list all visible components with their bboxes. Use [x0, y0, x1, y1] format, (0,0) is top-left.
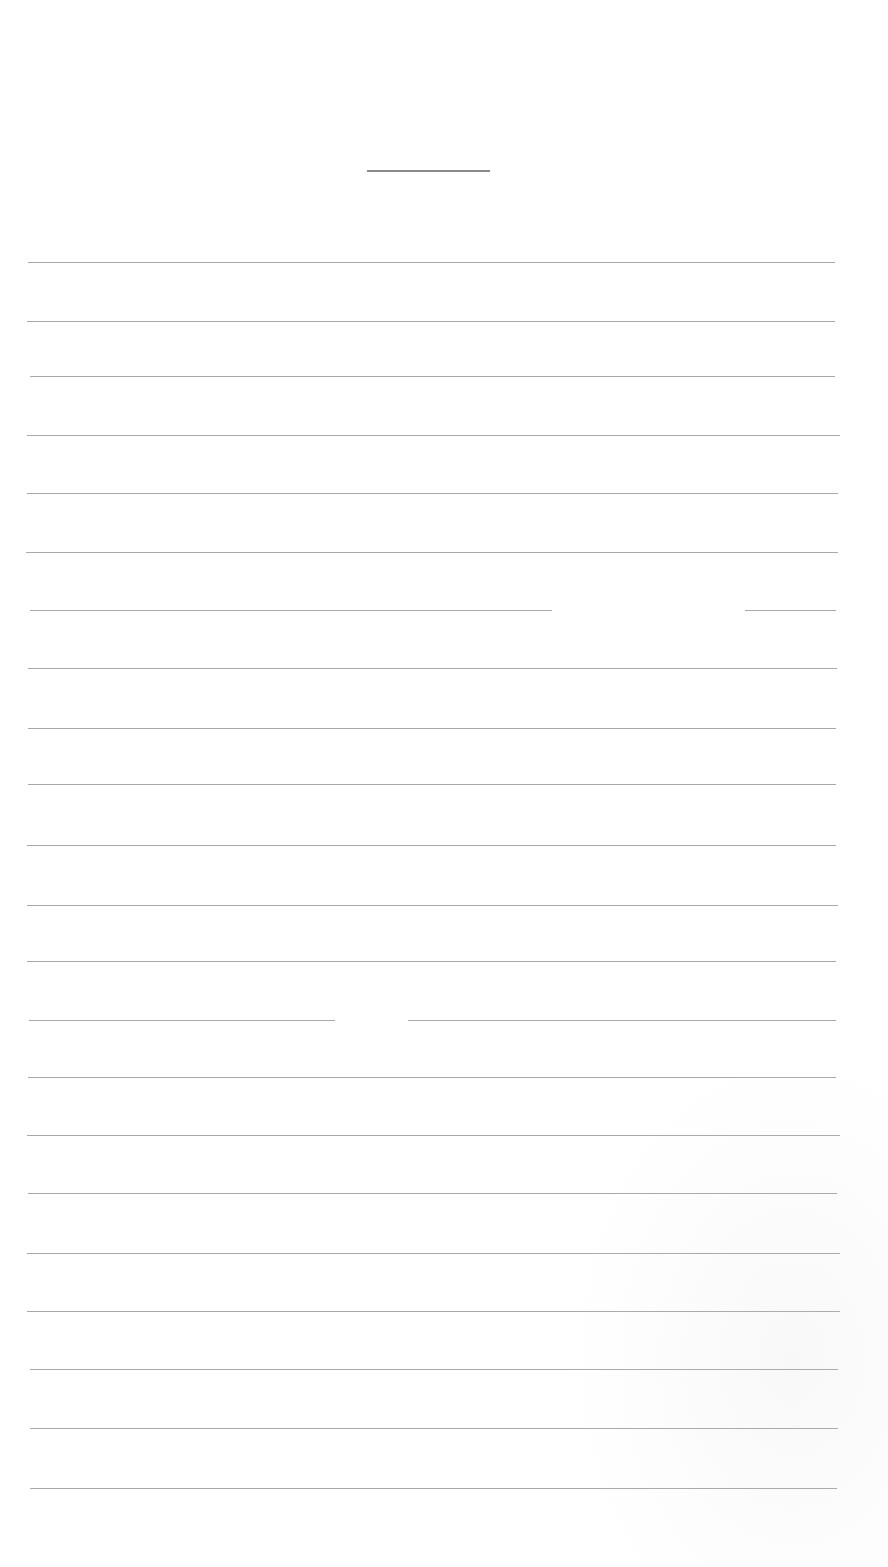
- paper-texture: [568, 1047, 888, 1567]
- writing-line: [28, 784, 836, 785]
- writing-line: [27, 435, 840, 436]
- writing-line: [30, 376, 835, 377]
- writing-line: [27, 961, 836, 962]
- writing-line: [30, 610, 836, 611]
- writing-line: [27, 493, 838, 494]
- writing-line: [27, 845, 836, 846]
- writing-line: [28, 728, 836, 729]
- writing-line: [26, 552, 838, 553]
- title-line: [367, 170, 490, 172]
- writing-line: [27, 321, 835, 322]
- writing-line: [28, 668, 837, 669]
- writing-line: [27, 905, 838, 906]
- writing-line: [29, 1020, 836, 1021]
- writing-line: [28, 262, 835, 263]
- ruled-sheet: [0, 0, 888, 1567]
